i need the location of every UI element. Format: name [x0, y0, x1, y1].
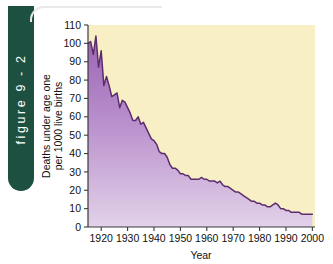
- y-tick-label: 30: [69, 166, 81, 178]
- y-axis-ticks: 0102030405060708090100110: [63, 19, 88, 233]
- y-tick-label: 0: [75, 221, 81, 233]
- x-tick-label: 2000: [301, 232, 325, 244]
- y-tick-label: 50: [69, 129, 81, 141]
- x-tick-label: 1930: [116, 232, 140, 244]
- infant-mortality-area-chart: 0102030405060708090100110 19201930194019…: [0, 0, 333, 264]
- x-tick-label: 1970: [221, 232, 245, 244]
- y-tick-label: 20: [69, 184, 81, 196]
- x-tick-label: 1990: [274, 232, 298, 244]
- y-tick-label: 70: [69, 92, 81, 104]
- x-axis-title: Year: [190, 249, 212, 261]
- x-tick-label: 1960: [195, 232, 219, 244]
- y-tick-label: 10: [69, 202, 81, 214]
- x-tick-label: 1950: [169, 232, 193, 244]
- y-axis-title-line-2: per 1000 live births: [52, 82, 64, 171]
- y-axis-title-line-1: Deaths under age one: [40, 74, 52, 178]
- y-tick-label: 60: [69, 110, 81, 122]
- y-tick-label: 90: [69, 55, 81, 67]
- y-tick-label: 40: [69, 147, 81, 159]
- y-tick-label: 80: [69, 74, 81, 86]
- x-tick-label: 1940: [142, 232, 166, 244]
- y-tick-label: 100: [63, 37, 81, 49]
- x-tick-label: 1920: [90, 232, 114, 244]
- x-axis-ticks: 192019301940195019601970198019902000: [90, 227, 325, 244]
- chart-container: 0102030405060708090100110 19201930194019…: [0, 0, 333, 264]
- y-tick-label: 110: [64, 19, 81, 31]
- x-tick-label: 1980: [248, 232, 272, 244]
